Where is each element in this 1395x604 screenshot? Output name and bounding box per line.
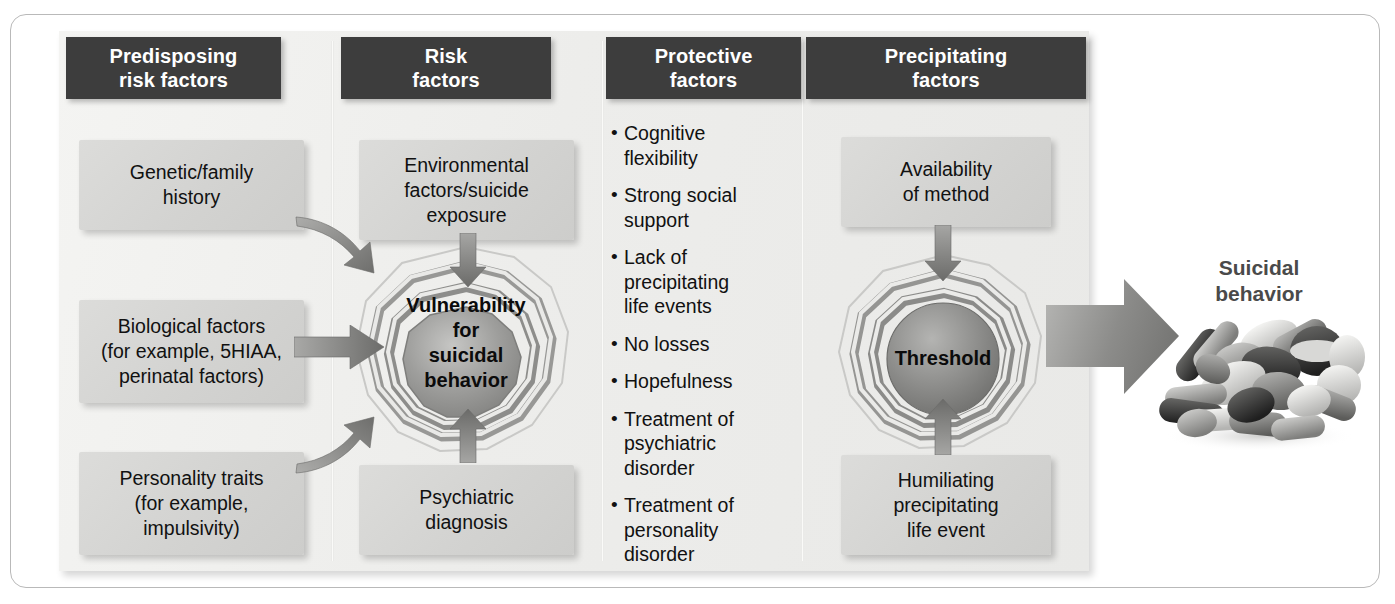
bullet-icon: • [611,183,624,232]
list-item-text: Treatment of psychiatric disorder [624,407,801,481]
list-item-text: Hopefulness [624,369,801,394]
header-line-2: factors [912,69,979,91]
bullet-icon: • [611,493,624,567]
box-line: factors/suicide [404,178,529,203]
box-line: exposure [404,203,529,228]
list-item: • Strong social support [611,183,801,232]
list-item-text: Lack of precipitating life events [624,245,801,319]
box-line: history [130,185,254,210]
list-line: personality [624,519,718,541]
box-line: Humiliating [893,468,998,493]
box-genetic-family-history: Genetic/family history [79,140,304,230]
box-line: of method [900,182,992,207]
protective-factors-list: • Cognitive flexibility • Strong social … [611,121,801,580]
bullet-icon: • [611,121,624,170]
list-line: support [624,209,689,231]
box-line: diagnosis [419,510,513,535]
list-line: precipitating [624,271,729,293]
list-line: disorder [624,457,694,479]
list-item-text: Strong social support [624,183,801,232]
column-header-risk: Risk factors [341,37,551,99]
arrow-psychiatric-to-vulnerability [448,407,488,463]
bullet-icon: • [611,245,624,319]
figure-frame: Predisposing risk factors Risk factors P… [10,14,1380,588]
box-humiliating-life-event: Humiliating precipitating life event [841,455,1051,555]
header-line-1: Protective [655,45,753,67]
header-line-1: Risk [425,45,468,67]
box-line: Availability [900,157,992,182]
pile-of-pills-icon [1151,305,1366,450]
arrow-genetic-to-vulnerability [294,211,394,281]
bullet-icon: • [611,407,624,481]
arrow-personality-to-vulnerability [294,409,394,479]
box-availability-of-method: Availability of method [841,137,1051,227]
list-line: psychiatric [624,432,716,454]
list-item-text: Cognitive flexibility [624,121,801,170]
list-item: • Treatment of personality disorder [611,493,801,567]
box-line: Environmental [404,153,529,178]
column-header-precipitating: Precipitating factors [806,37,1086,99]
outcome-line: behavior [1215,282,1303,305]
box-line: perinatal factors) [101,364,282,389]
list-item-text: Treatment of personality disorder [624,493,801,567]
column-divider-2 [601,41,604,561]
list-item: • Hopefulness [611,369,801,394]
list-item: • No losses [611,332,801,357]
box-line: Psychiatric [419,485,513,510]
header-line-1: Predisposing [110,45,238,67]
header-line-2: factors [412,69,479,91]
box-biological-factors: Biological factors (for example, 5HIAA, … [79,300,304,403]
box-line: Personality traits [119,466,263,491]
box-line: Genetic/family [130,160,254,185]
bullet-icon: • [611,369,624,394]
box-line: (for example, 5HIAA, [101,339,282,364]
arrow-humiliating-event-to-threshold [923,397,963,455]
bullet-icon: • [611,332,624,357]
list-line: flexibility [624,147,698,169]
box-line: impulsivity) [119,516,263,541]
header-line-2: factors [670,69,737,91]
list-item: • Lack of precipitating life events [611,245,801,319]
outcome-line: Suicidal [1219,256,1300,279]
column-header-protective: Protective factors [606,37,801,99]
header-line-2: risk factors [119,69,228,91]
arrow-environmental-to-vulnerability [448,233,488,289]
list-line: Hopefulness [624,370,732,392]
column-divider-3 [801,41,804,561]
list-line: Treatment of [624,408,734,430]
box-line: Biological factors [101,314,282,339]
list-item: • Treatment of psychiatric disorder [611,407,801,481]
arrow-availability-to-threshold [923,225,963,283]
list-item-text: No losses [624,332,801,357]
arrow-biological-to-vulnerability [294,325,386,373]
column-header-predisposing: Predisposing risk factors [66,37,281,99]
box-line: (for example, [119,491,263,516]
outcome-label: Suicidal behavior [1179,255,1339,307]
list-line: Cognitive [624,122,705,144]
header-line-1: Precipitating [885,45,1007,67]
list-line: Treatment of [624,494,734,516]
list-line: Lack of [624,246,687,268]
list-line: Strong social [624,184,737,206]
list-line: life events [624,295,712,317]
list-line: disorder [624,543,694,565]
box-personality-traits: Personality traits (for example, impulsi… [79,452,304,555]
list-item: • Cognitive flexibility [611,121,801,170]
column-divider-1 [331,41,334,561]
list-line: No losses [624,333,710,355]
box-line: precipitating [893,493,998,518]
box-line: life event [893,518,998,543]
